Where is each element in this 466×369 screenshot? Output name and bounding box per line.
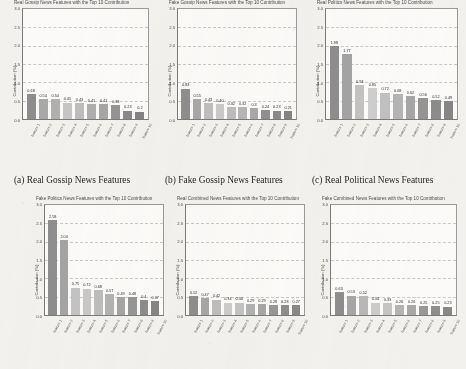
bar-value-label: 0.21 [285, 106, 292, 110]
bar-value-label: 0.23 [273, 105, 280, 109]
chart-row-bottom: Fake Politics News Features with the Top… [0, 196, 466, 369]
y-tick: 0.5 [36, 295, 42, 300]
bar-value-label: 0.54 [52, 94, 59, 98]
chart-row-top: Real Gossip News Features with the Top 1… [0, 0, 466, 168]
x-tick-label: feature 1 [47, 319, 56, 323]
bar: 0.72 [83, 289, 92, 315]
bar-value-label: 0.85 [369, 83, 376, 87]
bar: 0.56 [418, 98, 428, 119]
bar-value-label: 0.25 [420, 301, 427, 305]
y-tick: 3.0 [322, 202, 328, 207]
y-tick: 3.0 [169, 6, 175, 11]
bar: 0.32 [238, 107, 247, 119]
y-tick: 2.0 [14, 43, 20, 48]
bar-value-label: 0.52 [190, 291, 197, 295]
bar: 0.57 [105, 294, 114, 315]
bar: 0.43 [204, 103, 213, 119]
y-tick: 1.0 [36, 276, 42, 281]
chart-panel-fake-combined: Fake Combined News Features with the Top… [308, 196, 463, 357]
bar-value-label: 0.28 [281, 300, 288, 304]
y-tick: 2.5 [169, 24, 175, 29]
plot-area: 0.520.470.420.340.340.290.290.280.280.27 [185, 204, 305, 316]
figure-sheet: Real Gossip News Features with the Top 1… [0, 0, 466, 369]
bar-value-label: 0.34 [236, 297, 243, 301]
bar-value-label: 0.43 [205, 98, 212, 102]
bar-value-label: 0.55 [193, 94, 200, 98]
bar-series: 0.630.530.520.340.330.260.260.250.250.23 [331, 205, 456, 315]
y-tick: 1.0 [317, 80, 323, 85]
bar: 0.52 [189, 296, 198, 315]
bar-value-label: 0.38 [112, 100, 119, 104]
chart-panel-real-gossip: Real Gossip News Features with the Top 1… [0, 0, 155, 156]
y-tick: 0.5 [322, 295, 328, 300]
plot-area: 1.981.770.930.850.720.680.620.560.520.49 [325, 8, 458, 120]
bar: 0.41 [99, 104, 108, 119]
y-tick: 0.5 [14, 99, 20, 104]
bar-value-label: 0.72 [381, 87, 388, 91]
y-tick: 2.0 [36, 239, 42, 244]
bar: 0.42 [212, 300, 221, 315]
y-tick: 2.0 [317, 43, 323, 48]
y-tick: 3.0 [36, 202, 42, 207]
bar: 0.23 [443, 307, 452, 315]
y-axis-ticks: 0.0 0.5 1.0 1.5 2.0 2.5 3.0 [316, 204, 329, 316]
y-tick: 1.5 [36, 258, 42, 263]
bar: 0.40 [216, 104, 225, 119]
bar-value-label: 0.2 [137, 106, 142, 110]
y-tick: 0.0 [317, 118, 323, 123]
bar-value-label: 0.25 [432, 301, 439, 305]
bar: 0.23 [273, 111, 282, 119]
x-tick-label: feature 1 [329, 123, 339, 127]
bar-value-label: 0.68 [394, 89, 401, 93]
bar: 0.47 [201, 298, 210, 315]
bar: 0.53 [347, 296, 356, 315]
bar-value-label: 0.68 [27, 89, 34, 93]
bar: 0.62 [406, 96, 416, 119]
bar: 0.45 [63, 103, 72, 120]
y-tick: 1.0 [177, 276, 183, 281]
bar: 0.34 [235, 303, 244, 315]
bar: 0.54 [39, 99, 48, 119]
bar: 0.52 [359, 296, 368, 315]
bar: 0.54 [51, 99, 60, 119]
bar: 0.27 [292, 305, 301, 315]
bar-value-label: 0.34 [224, 297, 231, 301]
bar-value-label: 0.28 [270, 300, 277, 304]
y-tick: 2.5 [177, 220, 183, 225]
bar: 1.98 [330, 46, 340, 119]
x-tick-label: feature 1 [188, 319, 197, 323]
y-tick: 0.5 [177, 295, 183, 300]
y-tick: 2.5 [36, 220, 42, 225]
bar-value-label: 0.49 [117, 292, 124, 296]
bar: 0.26 [407, 305, 416, 315]
bar: 0.68 [94, 290, 103, 315]
bar-value-label: 0.49 [445, 96, 452, 100]
y-axis-ticks: 0.0 0.5 1.0 1.5 2.0 2.5 3.0 [163, 8, 176, 120]
bar: 0.48 [128, 297, 137, 315]
bar-value-label: 0.41 [88, 99, 95, 103]
x-tick-label: feature 1 [26, 123, 35, 127]
plot-area: 0.630.530.520.340.330.260.260.250.250.23 [330, 204, 457, 316]
bar-value-label: 0.26 [408, 300, 415, 304]
chart-panel-fake-politics: Fake Politics News Features with the Top… [22, 196, 170, 357]
chart-panel-fake-gossip: Fake Gossip News Features with the Top 1… [155, 0, 303, 156]
y-tick: 3.0 [317, 6, 323, 11]
bar: 0.38 [111, 105, 120, 119]
x-axis-labels: feature 1feature 2feature 3feature 4feat… [22, 123, 149, 127]
y-axis-ticks: 0.0 0.5 1.0 1.5 2.0 2.5 3.0 [8, 8, 21, 120]
bar-value-label: 0.68 [95, 285, 102, 289]
bar-value-label: 1.77 [343, 49, 350, 53]
bar-value-label: 0.41 [100, 99, 107, 103]
bar-value-label: 0.23 [124, 105, 131, 109]
y-tick: 2.0 [177, 239, 183, 244]
y-tick: 1.5 [14, 62, 20, 67]
bar: 0.26 [395, 305, 404, 315]
y-tick: 2.0 [169, 43, 175, 48]
bar-value-label: 0.52 [360, 291, 367, 295]
bar: 0.33 [383, 303, 392, 315]
y-tick: 0.0 [14, 118, 20, 123]
bar: 0.72 [380, 93, 390, 119]
y-tick: 2.5 [317, 24, 323, 29]
bar: 0.37 [151, 301, 160, 315]
bar: 0.32 [227, 107, 236, 119]
